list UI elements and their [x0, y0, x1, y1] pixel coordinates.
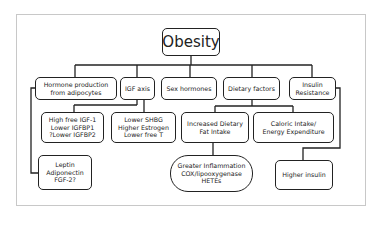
igf-effects-node: High free IGF-1 Lower IGFBP1 ?Lower IGFB…: [41, 112, 104, 143]
hormone-production-node: Hormone production from adipocytes: [35, 77, 117, 100]
igf-axis-node: IGF axis: [120, 77, 155, 100]
caloric-intake-node: Caloric Intake/ Energy Expenditure: [253, 112, 334, 143]
sex-hormone-effects-node: Lower SHBG Higher Estrogen Lower free T: [111, 112, 176, 143]
adipokines-node: Leptin Adiponectin FGF-2?: [38, 155, 92, 190]
fat-intake-node: Increased Dietary Fat Intake: [181, 112, 249, 143]
insulin-resistance-node: Insulin Resistance: [289, 77, 336, 100]
dietary-factors-node: Dietary factors: [223, 77, 280, 100]
higher-insulin-node: Higher insulin: [275, 160, 333, 190]
inflammation-node: Greater Inflammation COX/lipooxygenase H…: [170, 155, 253, 192]
sex-hormones-node: Sex hormones: [161, 77, 217, 100]
obesity-node: Obesity: [162, 28, 220, 56]
